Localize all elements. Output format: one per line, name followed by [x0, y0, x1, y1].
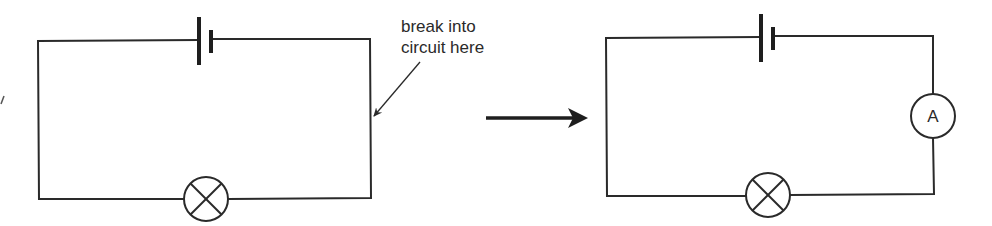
left-circuit: break into circuit here [38, 17, 484, 221]
right-wire-bottom-right [790, 138, 934, 195]
ammeter-icon: A [911, 94, 955, 138]
right-wire-top-right [773, 36, 933, 94]
lamp-icon [184, 177, 228, 221]
cell-icon [199, 17, 211, 65]
left-wire-left [38, 40, 199, 199]
right-wire-left [606, 37, 761, 196]
left-wire-right [211, 39, 371, 199]
lamp-icon [746, 173, 790, 217]
edge-mark [1, 96, 4, 104]
annotation-line-2: circuit here [401, 38, 484, 57]
right-arrow-icon [486, 108, 588, 128]
ammeter-label: A [927, 107, 939, 126]
circuit-diagram: break into circuit here A [0, 0, 992, 226]
cell-icon [761, 14, 773, 62]
pointer-arrow-icon [374, 62, 420, 116]
annotation-line-1: break into [401, 17, 476, 36]
right-circuit: A [606, 14, 955, 217]
